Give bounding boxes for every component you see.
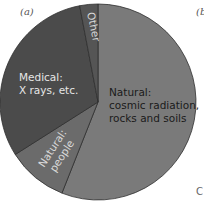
- pie-chart: Natural: cosmic radiation, rocks and soi…: [0, 0, 204, 216]
